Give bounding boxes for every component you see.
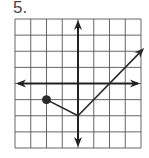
coordinate-graph (0, 0, 149, 158)
axes (16, 20, 140, 147)
closed-endpoint-dot (43, 96, 51, 104)
